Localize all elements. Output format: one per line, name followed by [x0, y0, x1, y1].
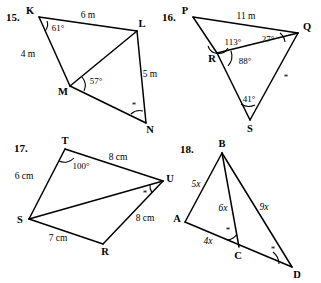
- angle-label-K: 61°: [52, 23, 65, 33]
- problem-18-number: 18.: [180, 143, 194, 155]
- angle-arc-M: [82, 77, 85, 91]
- vertex-label-C: C: [234, 250, 242, 261]
- side-label-AB: 5x: [192, 179, 202, 189]
- angle-arc-U: [150, 184, 152, 193]
- angle-tick-BCA: *: [226, 225, 231, 235]
- angle-label-Q: 27°: [262, 34, 275, 44]
- problem-15-number: 15.: [6, 11, 20, 23]
- problem-17-number: 17.: [14, 142, 28, 154]
- side-label-TU: 8 cm: [109, 152, 128, 162]
- vertex-label-S: S: [17, 214, 23, 225]
- problem-17: 17. T U S R 8 cm 6 cm 8 cm 7 cm 100° *: [0, 134, 175, 283]
- side-label-PQ: 11 m: [237, 11, 257, 21]
- problem-16-figure: P Q R S 11 m 113° 27° 88° 41° *: [158, 0, 321, 135]
- problem-17-figure: T U S R 8 cm 6 cm 8 cm 7 cm 100° *: [0, 134, 175, 283]
- side-label-KL: 6 m: [81, 10, 96, 20]
- segment-PR: [193, 17, 217, 53]
- angle-tick-N: *: [132, 100, 137, 110]
- side-label-BD: 9x: [260, 202, 270, 212]
- vertex-label-D: D: [293, 269, 301, 280]
- side-label-LN: 5 m: [143, 69, 158, 79]
- segment-QS: [250, 33, 298, 120]
- problem-16-number: 16.: [162, 11, 176, 23]
- problem-16: 16. P Q R S 11 m 113° 27° 88° 41°: [158, 0, 321, 135]
- side-label-RU: 8 cm: [136, 213, 155, 223]
- angle-label-M: 57°: [90, 76, 103, 86]
- angle-label-QRS: 88°: [239, 56, 252, 66]
- vertex-label-R: R: [101, 246, 109, 257]
- vertex-label-A: A: [173, 213, 181, 224]
- side-label-KM: 4 m: [21, 49, 36, 59]
- angle-label-PRQ: 113°: [225, 37, 242, 47]
- angle-label-T: 100°: [72, 161, 90, 171]
- vertex-label-K: K: [26, 5, 35, 16]
- worksheet-page: 15. K L M N 6 m 4 m 5 m 61° 57°: [0, 0, 321, 283]
- vertex-label-R: R: [208, 53, 216, 64]
- problem-18-figure: B A C D 5x 6x 9x 4x * *: [170, 134, 321, 283]
- vertex-label-T: T: [61, 135, 68, 146]
- vertex-label-L: L: [138, 18, 145, 29]
- side-label-ST: 6 cm: [15, 171, 34, 181]
- angle-arc-N: [131, 111, 143, 114]
- angle-arc-QRS: [228, 51, 232, 66]
- angle-tick-U: *: [143, 188, 148, 198]
- segment-TS: [29, 149, 65, 219]
- vertex-label-P: P: [182, 5, 189, 16]
- problem-15: 15. K L M N 6 m 4 m 5 m 61° 57°: [0, 0, 160, 135]
- segment-ML: [70, 31, 137, 86]
- problem-15-figure: K L M N 6 m 4 m 5 m 61° 57° *: [0, 0, 160, 135]
- problem-18: 18. B A C D 5x 6x 9x 4x * *: [170, 134, 321, 283]
- vertex-label-B: B: [218, 138, 225, 149]
- angle-label-S: 41°: [243, 94, 256, 104]
- vertex-label-Q: Q: [303, 21, 311, 32]
- vertex-label-S: S: [247, 123, 253, 134]
- side-label-SR: 7 cm: [49, 233, 68, 243]
- vertex-label-M: M: [58, 86, 68, 97]
- angle-tick-D: *: [271, 244, 276, 254]
- angle-tick-QS: *: [284, 72, 289, 82]
- side-label-BC: 6x: [219, 203, 229, 213]
- side-label-AC: 4x: [204, 236, 214, 246]
